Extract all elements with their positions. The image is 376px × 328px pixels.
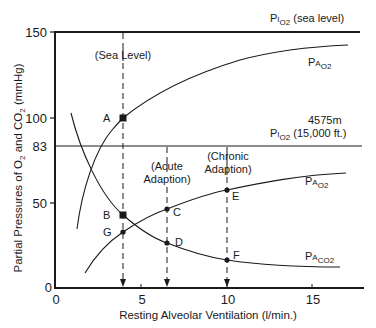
paco2-label: PACO2 — [305, 250, 335, 265]
arrow-down-icon — [120, 279, 126, 287]
chronic-label-2: Adaption) — [204, 163, 251, 175]
chart: 150 100 83 50 0 0 5 10 15 Resting Alveol… — [0, 0, 376, 328]
point-b — [120, 212, 127, 219]
point-label-e: E — [232, 190, 239, 202]
y-tick-83: 83 — [33, 139, 47, 154]
y-tick-0: 0 — [45, 280, 52, 295]
x-tick-15: 15 — [306, 292, 320, 307]
y-axis-title: Partial Pressures of O2 and CO2 (mmHg) — [12, 63, 27, 272]
y-tick-100: 100 — [25, 111, 47, 126]
x-axis-title: Resting Alveolar Ventilation (l/min.) — [119, 309, 297, 321]
point-label-g: G — [103, 226, 112, 238]
y-tick-50: 50 — [33, 196, 47, 211]
point-e — [224, 187, 229, 192]
arrow-down-icon — [224, 279, 230, 287]
point-a — [120, 115, 127, 122]
point-label-b: B — [103, 209, 110, 221]
pao2-sea-level-label: PAO2 — [308, 56, 332, 71]
pio2-sea-level-label: PIO2 (sea level) — [270, 12, 344, 27]
point-f — [224, 257, 229, 262]
sea-level-label: (Sea Level) — [95, 49, 151, 61]
x-tick-5: 5 — [138, 292, 145, 307]
point-g — [120, 229, 125, 234]
point-label-d: D — [175, 236, 183, 248]
y-tick-150: 150 — [25, 25, 47, 40]
point-d — [164, 240, 169, 245]
acute-label-1: (Acute — [151, 160, 183, 172]
point-label-c: C — [173, 206, 181, 218]
x-tick-10: 10 — [221, 292, 235, 307]
altitude-label: 4575m — [308, 114, 342, 126]
point-label-a: A — [103, 112, 111, 124]
point-label-f: F — [233, 249, 240, 261]
x-tick-0: 0 — [52, 292, 59, 307]
acute-label-2: Adaption) — [143, 173, 190, 185]
chronic-label-1: (Chronic — [207, 150, 249, 162]
point-c — [164, 206, 169, 211]
arrow-down-icon — [164, 279, 170, 287]
pao2-altitude-label: PAO2 — [305, 175, 329, 190]
pio2-altitude-label: PIO2 (15,000 ft.) — [270, 127, 347, 142]
